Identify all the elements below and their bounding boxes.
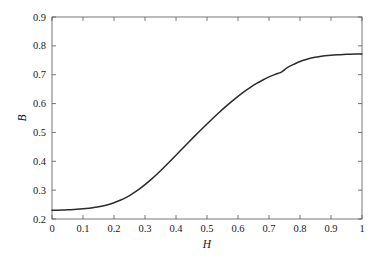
x-tick-label: 0.9 [324, 223, 337, 234]
plot-svg: 00.10.20.30.40.50.60.70.80.91 0.20.30.40… [0, 0, 384, 260]
x-tick-label: 0.3 [138, 223, 151, 234]
chart-figure: 00.10.20.30.40.50.60.70.80.91 0.20.30.40… [0, 0, 384, 260]
y-tick-label: 0.3 [33, 185, 46, 196]
axes-frame [52, 17, 362, 219]
x-tick-label: 0.6 [231, 223, 244, 234]
y-tick-label: 0.4 [33, 156, 47, 167]
y-tick-label: 0.7 [33, 69, 46, 80]
axes-box [52, 17, 362, 219]
y-tick-label: 0.2 [33, 214, 46, 225]
y-axis-title: B [16, 114, 28, 121]
x-axis-tick-labels: 00.10.20.30.40.50.60.70.80.91 [49, 223, 364, 234]
x-tick-label: 0 [49, 223, 54, 234]
x-tick-label: 0.2 [107, 223, 120, 234]
x-tick-label: 0.7 [262, 223, 275, 234]
x-axis-title: H [202, 238, 212, 250]
y-tick-label: 0.9 [33, 12, 46, 23]
x-tick-label: 0.5 [200, 223, 213, 234]
y-axis-tick-labels: 0.20.30.40.50.60.70.80.9 [33, 12, 47, 225]
y-tick-label: 0.6 [33, 98, 46, 109]
x-tick-label: 0.1 [76, 223, 89, 234]
y-tick-label: 0.5 [33, 127, 46, 138]
y-tick-label: 0.8 [33, 40, 46, 51]
x-tick-label: 1 [359, 223, 364, 234]
x-tick-label: 0.8 [293, 223, 306, 234]
x-tick-label: 0.4 [169, 223, 183, 234]
